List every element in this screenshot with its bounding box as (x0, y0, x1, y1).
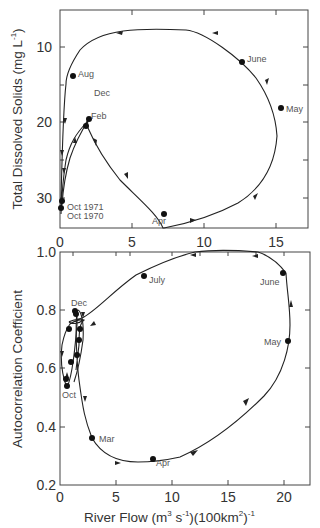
label-aug: Aug (78, 69, 94, 79)
bottom-y-axis-label: Autocorrelation Coefficient (10, 290, 25, 448)
bottom-y-tick-0.8: 0.8 (37, 302, 57, 318)
bottom-x-tick-10: 10 (164, 489, 180, 505)
top-y-tick-10: 10 (36, 39, 52, 55)
label-mar: Mar (99, 434, 115, 444)
bottom-x-tick-0: 0 (56, 489, 64, 505)
label-dec: Dec (94, 88, 111, 98)
label-dec-bottom: Dec (71, 298, 88, 308)
top-y-tick-20: 20 (36, 114, 52, 130)
bottom-x-tick-15: 15 (220, 489, 236, 505)
top-x-tick-15: 15 (268, 234, 284, 250)
label-apr-bottom: Apr (156, 458, 170, 468)
figure: 10 20 30 Total Dissolved Solids (mg L-1) (0, 0, 320, 528)
top-loop-curve (61, 29, 277, 228)
bottom-y-tick-0.4: 0.4 (37, 419, 57, 435)
label-may-top: May (286, 104, 304, 114)
top-x-tick-10: 10 (196, 234, 212, 250)
top-x-tick-0: 0 (56, 234, 64, 250)
bottom-direction-arrows (60, 253, 293, 465)
top-y-tick-30: 30 (36, 190, 52, 206)
bottom-x-tick-5: 5 (112, 489, 120, 505)
bottom-data-points (63, 270, 291, 462)
label-feb: Feb (91, 111, 107, 121)
top-x-tick-5: 5 (128, 234, 136, 250)
bottom-x-axis-label: River Flow (m3 s-1)(100km2)-1 (84, 509, 255, 525)
label-may-bottom: May (264, 337, 282, 347)
bottom-y-tick-0.2: 0.2 (37, 477, 57, 493)
label-july: July (149, 275, 166, 285)
bottom-y-tick-0.6: 0.6 (37, 360, 57, 376)
top-chart: 10 20 30 Total Dissolved Solids (mg L-1) (9, 10, 308, 250)
label-june-top: June (247, 54, 267, 64)
label-oct-1970: Oct 1970 (67, 211, 104, 221)
bottom-x-tick-20: 20 (276, 489, 292, 505)
bottom-y-tick-1.0: 1.0 (37, 244, 57, 260)
top-y-axis-label: Total Dissolved Solids (mg L-1) (9, 28, 25, 209)
label-june-bottom: June (260, 277, 280, 287)
bottom-chart: 1.0 0.8 0.6 0.4 0.2 Autocorrelation Coef… (10, 244, 310, 525)
label-oct-bottom: Oct (62, 390, 77, 400)
label-apr-top: Apr (152, 216, 166, 226)
bottom-loop-curve (61, 251, 290, 463)
